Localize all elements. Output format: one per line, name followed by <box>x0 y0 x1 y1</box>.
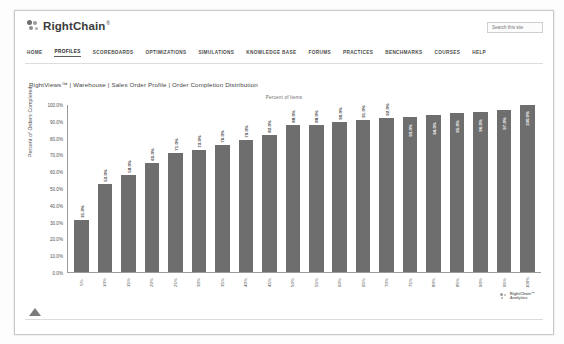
x-tick-label: 100% <box>525 277 530 288</box>
bar-slot: 90.0% <box>328 105 351 272</box>
bar[interactable]: 91.0% <box>356 120 371 272</box>
nav-item-simulations[interactable]: SIMULATIONS <box>198 50 234 57</box>
page-root: RightChain® HOME PROFILES SCOREBOARDS OP… <box>0 0 564 344</box>
nav-item-practices[interactable]: PRACTICES <box>343 50 373 57</box>
y-tick-label: 50.0% <box>50 187 63 192</box>
bar-slot: 58.0% <box>117 105 140 272</box>
nav-item-profiles[interactable]: PROFILES <box>54 49 80 57</box>
bar-value-label: 97.0% <box>501 117 506 129</box>
bar[interactable]: 92.0% <box>379 118 394 272</box>
bar[interactable]: 100.0% <box>520 105 535 272</box>
bar[interactable]: 58.0% <box>121 175 136 272</box>
bar-slot: 65.0% <box>140 105 163 272</box>
bar-slot: 93.0% <box>398 105 421 272</box>
bar[interactable]: 97.0% <box>497 110 512 272</box>
bar[interactable]: 73.0% <box>192 150 207 272</box>
bar[interactable]: 65.0% <box>145 163 160 272</box>
nav-divider <box>25 63 543 64</box>
x-tick-label: 85% <box>454 278 459 287</box>
bar[interactable]: 95.0% <box>450 113 465 272</box>
bar-value-label: 88.0% <box>314 110 319 122</box>
nav-item-home[interactable]: HOME <box>27 50 42 57</box>
x-slot: 45% <box>257 275 281 301</box>
nav-item-forums[interactable]: FORUMS <box>309 50 331 57</box>
bar-value-label: 71.0% <box>173 139 178 151</box>
x-slot: 35% <box>210 275 234 301</box>
bar-slot: 100.0% <box>516 105 539 272</box>
chart-panel: Percent of Items Percent of Orders Compl… <box>25 95 543 305</box>
plot-canvas: 31.0%53.0%58.0%65.0%71.0%73.0%76.0%79.0%… <box>67 105 541 273</box>
y-axis-ticks: 100.0%90.0%80.0%70.0%60.0%50.0%40.0%30.0… <box>43 105 65 273</box>
x-slot: 65% <box>351 275 375 301</box>
bar-slot: 95.0% <box>445 105 468 272</box>
nav-item-benchmarks[interactable]: BENCHMARKS <box>385 50 422 57</box>
nav-item-scoreboards[interactable]: SCOREBOARDS <box>93 50 134 57</box>
y-tick-label: 30.0% <box>50 220 63 225</box>
x-slot: 55% <box>304 275 328 301</box>
chart-title: Percent of Items <box>25 95 543 100</box>
x-tick-label: 60% <box>337 278 342 287</box>
y-tick-label: 100.0% <box>47 103 63 108</box>
site-header: RightChain® <box>15 11 553 44</box>
x-slot: 25% <box>163 275 187 301</box>
bar-value-label: 100.0% <box>525 111 530 126</box>
watermark-line2: Analytics <box>510 295 528 300</box>
y-tick-label: 20.0% <box>50 237 63 242</box>
y-tick-label: 90.0% <box>50 119 63 124</box>
bar-value-label: 53.0% <box>103 169 108 181</box>
bar-value-label: 82.0% <box>267 120 272 132</box>
x-tick-label: 80% <box>431 278 436 287</box>
bar[interactable]: 71.0% <box>168 153 183 272</box>
nav-item-courses[interactable]: COURSES <box>435 50 461 57</box>
bar[interactable]: 88.0% <box>309 125 324 272</box>
bar[interactable]: 76.0% <box>215 145 230 272</box>
x-tick-label: 15% <box>125 278 130 287</box>
bar-slot: 73.0% <box>187 105 210 272</box>
x-tick-label: 25% <box>172 278 177 287</box>
bar[interactable]: 88.0% <box>286 125 301 272</box>
bar[interactable]: 96.0% <box>473 112 488 272</box>
x-slot: 80% <box>422 275 446 301</box>
bar-slot: 88.0% <box>305 105 328 272</box>
bar[interactable]: 82.0% <box>262 135 277 272</box>
brand-trademark: ® <box>106 20 110 26</box>
bar[interactable]: 94.0% <box>426 115 441 272</box>
y-tick-label: 70.0% <box>50 153 63 158</box>
x-slot: 90% <box>469 275 493 301</box>
x-tick-label: 10% <box>102 278 107 287</box>
x-tick-label: 40% <box>243 278 248 287</box>
x-slot: 5% <box>69 275 93 301</box>
nav-item-knowledge-base[interactable]: KNOWLEDGE BASE <box>246 50 296 57</box>
bar-value-label: 90.0% <box>337 107 342 119</box>
footer-divider <box>25 319 543 320</box>
bar[interactable]: 31.0% <box>74 220 89 272</box>
x-slot: 60% <box>328 275 352 301</box>
bar-slot: 92.0% <box>375 105 398 272</box>
brand-name: RightChain® <box>43 20 110 32</box>
x-slot: 15% <box>116 275 140 301</box>
search-input[interactable] <box>487 22 543 33</box>
y-tick-label: 10.0% <box>50 254 63 259</box>
bar-value-label: 95.0% <box>454 121 459 133</box>
bar[interactable]: 90.0% <box>332 122 347 272</box>
bar-value-label: 65.0% <box>150 149 155 161</box>
bar-slot: 31.0% <box>70 105 93 272</box>
x-tick-label: 20% <box>149 278 154 287</box>
x-tick-label: 5% <box>78 279 83 285</box>
plot-area: 100.0%90.0%80.0%70.0%60.0%50.0%40.0%30.0… <box>43 105 541 305</box>
scroll-to-top-icon[interactable] <box>29 308 41 316</box>
x-tick-label: 65% <box>360 278 365 287</box>
bar-value-label: 76.0% <box>220 130 225 142</box>
nav-item-optimizations[interactable]: OPTIMIZATIONS <box>146 50 187 57</box>
x-slot: 70% <box>375 275 399 301</box>
nav-item-help[interactable]: HELP <box>472 50 486 57</box>
y-tick-label: 40.0% <box>50 203 63 208</box>
bar[interactable]: 79.0% <box>239 140 254 272</box>
bar[interactable]: 53.0% <box>98 184 113 273</box>
bar[interactable]: 93.0% <box>403 117 418 272</box>
x-tick-label: 50% <box>290 278 295 287</box>
brand-logo[interactable]: RightChain® <box>27 20 110 32</box>
bar-slot: 71.0% <box>164 105 187 272</box>
x-slot: 75% <box>398 275 422 301</box>
site-frame: RightChain® HOME PROFILES SCOREBOARDS OP… <box>14 10 554 335</box>
